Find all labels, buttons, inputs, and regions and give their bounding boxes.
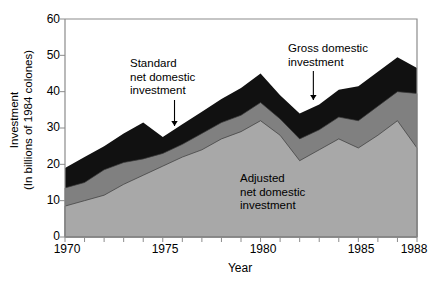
stacked-area-plot xyxy=(0,0,435,283)
annotation-standard-line3: investment xyxy=(130,84,195,98)
annotation-standard-net-domestic-investment: Standard net domestic investment xyxy=(130,57,195,98)
annotation-adjusted-line1: Adjusted xyxy=(240,172,305,186)
annotation-adjusted-net-domestic-investment: Adjusted net domestic investment xyxy=(240,172,305,213)
annotation-gross-line1: Gross domestic xyxy=(288,42,368,56)
annotation-adjusted-line2: net domestic xyxy=(240,186,305,200)
annotation-adjusted-line3: investment xyxy=(240,199,305,213)
annotation-standard-line1: Standard xyxy=(130,57,195,71)
annotation-gross-line2: investment xyxy=(288,56,368,70)
annotation-gross-domestic-investment: Gross domestic investment xyxy=(288,42,368,69)
annotation-standard-line2: net domestic xyxy=(130,71,195,85)
chart-figure: Investment (In billions of 1984 colones)… xyxy=(0,0,435,283)
